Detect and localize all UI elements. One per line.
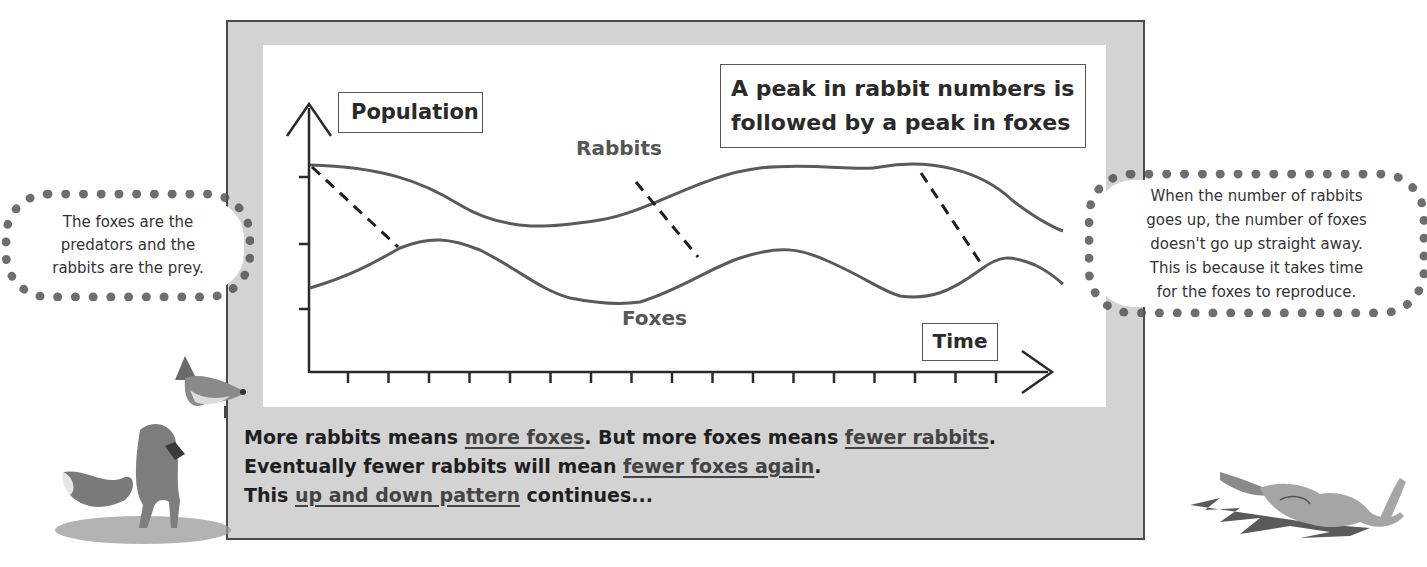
peak-relationship-label: A peak in rabbit numbers is followed by … xyxy=(720,64,1086,148)
callout-text: When the number of rabbits goes up, the … xyxy=(1146,184,1366,304)
x-ticks xyxy=(348,372,996,383)
caption-text: . xyxy=(814,455,821,477)
emphasis-fewer-foxes-again: fewer foxes again xyxy=(623,455,814,477)
predator-prey-callout: The foxes are the predators and the rabb… xyxy=(12,200,244,291)
caption-text: Eventually fewer rabbits will mean xyxy=(244,455,623,477)
caption-line-3: This up and down pattern continues... xyxy=(244,481,996,510)
y-ticks xyxy=(299,177,309,309)
peak-label-line-1: A peak in rabbit numbers is xyxy=(731,72,1085,106)
x-axis-label: Time xyxy=(922,323,998,361)
caption-text: . But more foxes means xyxy=(584,426,845,448)
foxes-curve xyxy=(310,240,1063,304)
emphasis-fewer-rabbits: fewer rabbits xyxy=(845,426,989,448)
callout-text: The foxes are the predators and the rabb… xyxy=(52,211,204,280)
emphasis-more-foxes: more foxes xyxy=(465,426,585,448)
emphasis-up-and-down-pattern: up and down pattern xyxy=(295,484,520,506)
caption-text: . xyxy=(989,426,996,448)
caption-text: continues... xyxy=(520,484,653,506)
peak-link-2 xyxy=(636,182,698,257)
rabbits-curve xyxy=(310,164,1063,231)
peak-link-3 xyxy=(921,173,980,262)
explanation-caption: More rabbits means more foxes. But more … xyxy=(244,423,996,510)
peak-link-1 xyxy=(312,167,398,247)
fox-illustration-icon xyxy=(25,350,255,550)
foxes-series-label: Foxes xyxy=(622,306,687,330)
reproduction-delay-callout: When the number of rabbits goes up, the … xyxy=(1095,180,1418,307)
rabbit-illustration-icon xyxy=(1180,460,1420,550)
peak-label-line-2: followed by a peak in foxes xyxy=(731,106,1085,140)
caption-line-2: Eventually fewer rabbits will mean fewer… xyxy=(244,452,996,481)
rabbits-series-label: Rabbits xyxy=(576,136,662,160)
caption-line-1: More rabbits means more foxes. But more … xyxy=(244,423,996,452)
y-axis-label: Population xyxy=(338,92,483,133)
caption-text: More rabbits means xyxy=(244,426,465,448)
